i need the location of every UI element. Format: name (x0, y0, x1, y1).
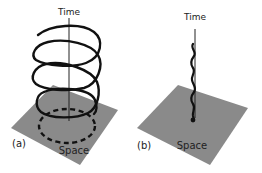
panel-a (11, 18, 118, 165)
panel-label-a: (a) (12, 139, 26, 149)
panel-label-b: (b) (137, 141, 151, 151)
figure-graphics (0, 0, 262, 173)
space-label-a: Space (59, 146, 89, 156)
time-label-a: Time (58, 8, 80, 17)
time-label-b: Time (184, 13, 206, 22)
space-label-b: Space (177, 141, 207, 151)
spacetime-figure: Time Space (a) Time Space (b) (0, 0, 262, 173)
origin-point (191, 118, 196, 123)
